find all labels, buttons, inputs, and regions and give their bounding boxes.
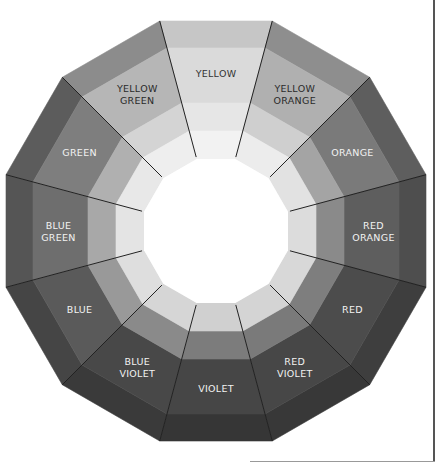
segment-blue-green-band-3 [88, 197, 116, 266]
segment-blue-green-band-4 [116, 204, 144, 258]
segment-yellow-band-3 [182, 103, 251, 131]
label-yellow-orange: YELLOWORANGE [273, 83, 316, 106]
frame-border-bottom [250, 461, 435, 462]
segment-violet-band-4 [189, 303, 243, 331]
color-wheel: YELLOWYELLOWORANGEORANGEREDORANGEREDREDV… [0, 0, 440, 464]
segment-red-orange-band-3 [316, 197, 344, 266]
label-green: GREEN [62, 147, 97, 158]
segment-yellow-band-1 [160, 21, 273, 48]
label-violet: VIOLET [198, 383, 234, 394]
segment-red-orange-band-1 [399, 175, 426, 288]
label-blue-violet: BLUEVIOLET [119, 356, 155, 379]
segment-violet-band-1 [160, 414, 273, 441]
label-yellow-green: YELLOWGREEN [116, 83, 158, 106]
segment-yellow-band-4 [189, 131, 243, 159]
frame-border-right [433, 0, 435, 462]
label-red: RED [342, 304, 363, 315]
center-hole [144, 159, 288, 303]
label-blue: BLUE [67, 304, 93, 315]
segment-blue-green-band-1 [6, 175, 33, 288]
label-yellow: YELLOW [195, 68, 237, 79]
label-blue-green: BLUEGREEN [41, 220, 76, 243]
segment-red-orange-band-4 [288, 204, 316, 258]
segment-violet-band-3 [182, 331, 251, 359]
label-orange: ORANGE [331, 147, 373, 158]
